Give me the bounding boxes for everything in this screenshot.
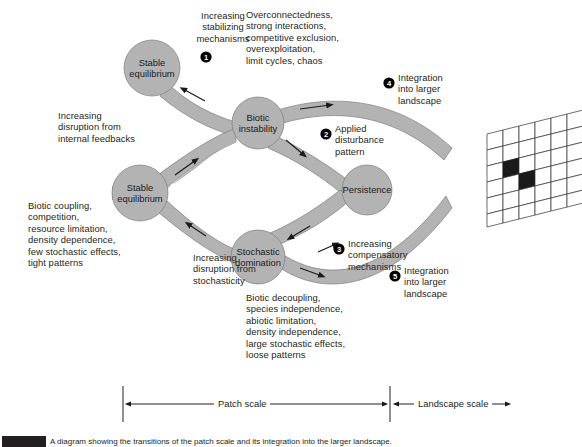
node-persistence[interactable]: Persistence — [342, 165, 392, 215]
scale-label-patch: Patch scale — [214, 398, 270, 409]
node-label-line2: equilibrium — [129, 68, 175, 79]
badge-1[interactable]: 1 — [200, 51, 211, 62]
annotation-overconnectedness-list: Overconnectedness, strong interactions, … — [246, 9, 376, 66]
node-stable-equilibrium-top[interactable]: Stable equilibrium — [124, 40, 180, 96]
badge-4[interactable]: 4 — [383, 77, 394, 88]
ribbon-left-node-to-biotic — [158, 128, 236, 188]
caption-bar: A diagram showing the transitions of the… — [0, 435, 582, 447]
caption-tag — [2, 436, 46, 447]
arrow-into-persistence-low — [318, 244, 336, 252]
annotation-biotic-coupling-list: Biotic coupling, competition, resource l… — [28, 200, 158, 268]
annotation-integration-landscape-top: Integration into larger landscape — [398, 72, 466, 106]
caption-text: A diagram showing the transitions of the… — [50, 437, 578, 447]
figure-root: Stable equilibrium Stable equilibrium Bi… — [0, 0, 582, 447]
annotation-integration-landscape-bottom: Integration into larger landscape — [404, 265, 472, 299]
annotation-increasing-disruption-internal: Increasing disruption from internal feed… — [58, 110, 168, 144]
node-label-line2: instability — [239, 123, 278, 134]
node-label-line1: Persistence — [343, 184, 392, 195]
node-label-line1: Stable — [127, 182, 154, 193]
ribbon-top-left-limb — [160, 84, 236, 136]
landscape-block-grid[interactable] — [487, 110, 582, 227]
annotation-applied-disturbance-pattern: Applied disturbance pattern — [335, 123, 415, 157]
annotation-increasing-disruption-stochasticity: Increasing disruption from stochasticity — [193, 252, 301, 286]
badge-number: 3 — [337, 245, 341, 254]
node-label-line1: Biotic — [247, 112, 270, 123]
ribbon-persistence-to-stochastic — [268, 190, 350, 246]
node-label-line1: Stable — [139, 57, 166, 68]
badge-number: 2 — [324, 130, 328, 139]
scale-label-landscape: Landscape scale — [414, 398, 492, 409]
badge-2[interactable]: 2 — [320, 128, 331, 139]
annotation-increasing-stabilizing-mechanisms: Increasing stabilizing mechanisms — [192, 10, 254, 44]
node-biotic-instability[interactable]: Biotic instability — [232, 97, 284, 149]
badge-3[interactable]: 3 — [333, 243, 344, 254]
annotation-biotic-decoupling-list: Biotic decoupling, species independence,… — [246, 292, 388, 360]
